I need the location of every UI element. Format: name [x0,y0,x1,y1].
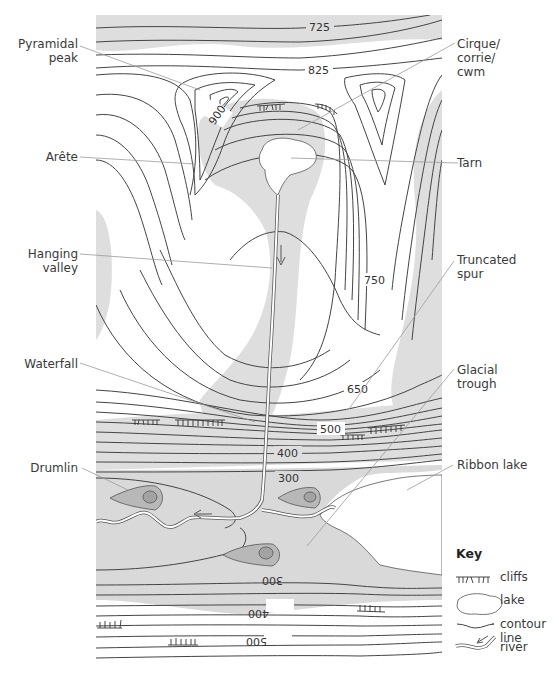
contour-map: 725 825 900 750 650 500 400 300 300 400 … [0,0,559,693]
contour-line-icon [457,624,494,628]
label-truncated-spur: Truncated spur [457,253,557,281]
glacial-landforms-diagram: 725 825 900 750 650 500 400 300 300 400 … [0,0,559,693]
contour-label-825: 825 [308,64,329,77]
map-area: 725 825 900 750 650 500 400 300 300 400 … [96,15,442,667]
label-pyramidal-peak: Pyramidal peak [10,37,78,65]
contour-label-725: 725 [309,21,330,34]
key-label-cliffs: cliffs [500,570,528,584]
label-drumlin: Drumlin [10,461,78,475]
label-tarn: Tarn [457,156,557,170]
key-symbols [456,577,502,648]
label-ribbon-lake: Ribbon lake [457,458,557,472]
key-label-river: river [500,640,528,654]
label-waterfall: Waterfall [10,357,78,371]
key-title: Key [456,546,482,561]
contour-label-400-inverted: 400 [248,607,269,620]
contour-label-300-inverted: 300 [262,574,283,587]
contour-label-650: 650 [347,383,368,396]
key-label-lake: lake [500,593,525,607]
river-icon [456,636,495,648]
cliffs-icon [456,577,490,583]
contour-label-300: 300 [278,472,299,485]
contour-label-500-inverted: 500 [246,635,267,648]
contour-label-750: 750 [364,274,385,287]
contour-label-400: 400 [277,447,298,460]
lake-icon [457,594,502,615]
label-hanging-valley: Hanging valley [10,247,78,275]
label-cirque: Cirque/ corrie/ cwm [457,37,557,79]
contour-label-500: 500 [320,423,341,436]
label-arete: Arête [10,150,78,164]
label-glacial-trough: Glacial trough [457,363,557,391]
